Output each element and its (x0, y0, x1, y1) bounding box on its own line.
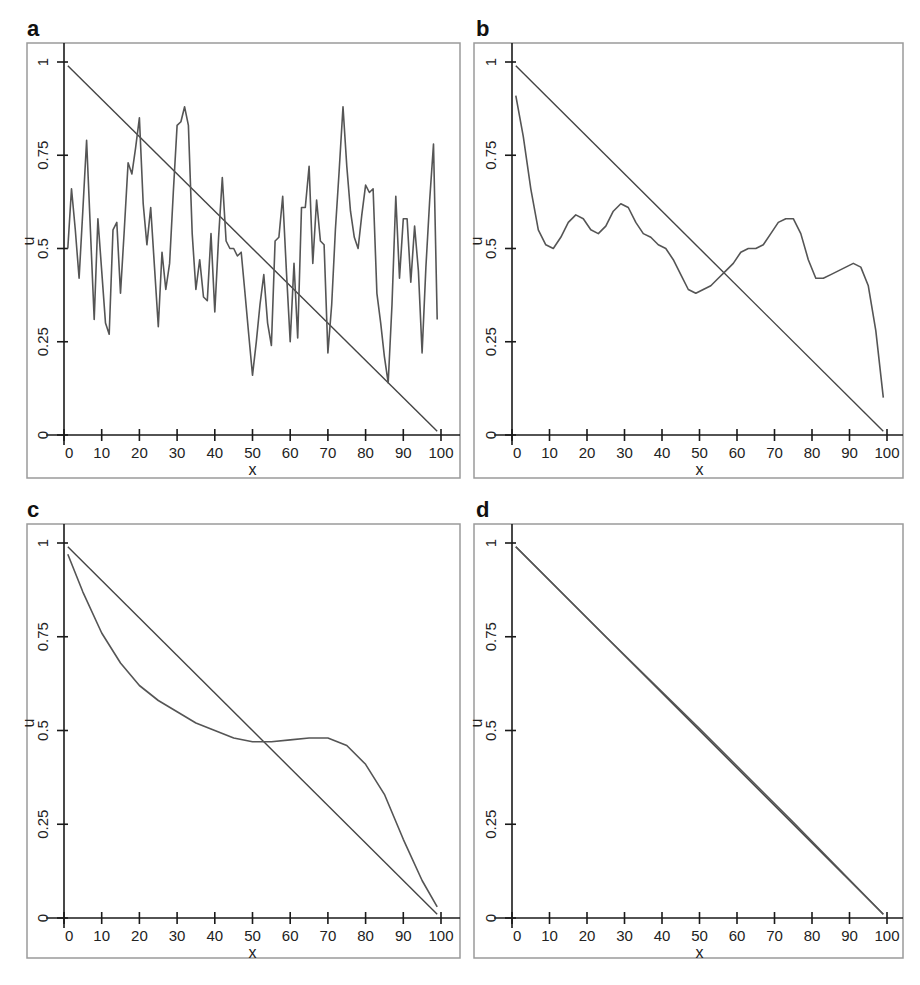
x-tick-label: 80 (804, 927, 821, 944)
y-axis-title: u (468, 719, 485, 728)
x-tick-label: 60 (729, 927, 746, 944)
x-tick-label: 30 (616, 927, 633, 944)
x-tick-label: 100 (874, 927, 899, 944)
x-tick-label: 0 (513, 927, 521, 944)
x-tick-label: 40 (654, 927, 671, 944)
y-tick-label: 0.75 (482, 622, 499, 651)
panel-d: d 010203040506070809010000.250.50.751xu (0, 0, 460, 490)
x-tick-label: 70 (766, 927, 783, 944)
y-tick-label: 1 (482, 539, 499, 547)
chart-d: 010203040506070809010000.250.50.751xu (0, 0, 920, 985)
y-tick-label: 0 (482, 914, 499, 922)
x-axis-title: x (696, 944, 704, 961)
x-tick-label: 10 (541, 927, 558, 944)
x-tick-label: 20 (579, 927, 596, 944)
plot-frame (474, 524, 903, 958)
x-tick-label: 50 (691, 927, 708, 944)
y-tick-label: 0.25 (482, 810, 499, 839)
x-tick-label: 90 (841, 927, 858, 944)
